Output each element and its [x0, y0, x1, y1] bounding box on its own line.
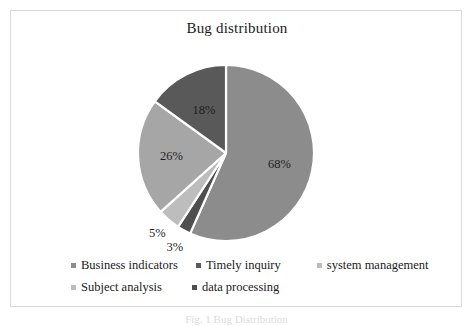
- legend-item[interactable]: Subject analysis: [71, 281, 162, 294]
- legend-color-swatch: [71, 285, 76, 290]
- legend-color-swatch: [192, 285, 197, 290]
- figure-frame: Bug distribution 68%3%5%26%18% Business …: [10, 10, 462, 307]
- legend-row: Business indicatorsTimely inquirysystem …: [11, 259, 463, 281]
- pie-slice-label: 26%: [160, 149, 183, 163]
- legend-item-label: system management: [327, 259, 429, 272]
- figure-caption: Fig. 1 Bug Distribution: [0, 313, 473, 326]
- pie-slice-label: 68%: [268, 157, 291, 171]
- legend-item[interactable]: system management: [317, 259, 429, 272]
- chart-title: Bug distribution: [11, 20, 463, 37]
- legend-color-swatch: [71, 263, 76, 268]
- legend-item[interactable]: Timely inquiry: [196, 259, 281, 272]
- pie-chart: 68%3%5%26%18%: [128, 55, 324, 251]
- pie-slice-label: 18%: [193, 103, 216, 117]
- legend-item[interactable]: Business indicators: [71, 259, 178, 272]
- pie-slice-label: 3%: [166, 240, 183, 251]
- legend-item-label: Subject analysis: [81, 281, 162, 294]
- pie-chart-svg: 68%3%5%26%18%: [128, 55, 324, 251]
- chart-legend: Business indicatorsTimely inquirysystem …: [11, 259, 463, 303]
- legend-item-label: Timely inquiry: [206, 259, 281, 272]
- legend-row: Subject analysisdata processing: [11, 281, 463, 303]
- legend-color-swatch: [196, 263, 201, 268]
- legend-item-label: Business indicators: [81, 259, 178, 272]
- pie-slice-label: 5%: [149, 226, 166, 240]
- legend-color-swatch: [317, 263, 322, 268]
- legend-item-label: data processing: [202, 281, 279, 294]
- legend-item[interactable]: data processing: [192, 281, 279, 294]
